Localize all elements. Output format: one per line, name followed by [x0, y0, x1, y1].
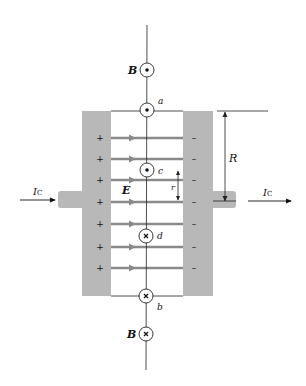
r-arrow-bottom — [176, 196, 180, 201]
point-a-label: a — [158, 96, 163, 106]
field-arrow — [111, 244, 183, 251]
minus-sign: – — [192, 133, 197, 143]
field-arrow — [111, 265, 183, 272]
point-b-label: b — [157, 302, 163, 312]
plus-sign: + — [96, 133, 104, 143]
point-c-out-of-page-icon — [140, 163, 154, 177]
minus-sign: – — [192, 263, 197, 273]
minus-sign: – — [192, 242, 197, 252]
B-top-label: B — [127, 64, 137, 77]
point-b-into-page-icon — [139, 289, 153, 303]
capacitor-diagram: R + + + + + + + – – – – – – – r E — [0, 0, 306, 386]
plus-sign: + — [96, 242, 104, 252]
B-bottom-label: B — [126, 328, 136, 341]
plus-sign: + — [96, 263, 104, 273]
R-label: R — [228, 152, 237, 165]
plus-sign: + — [96, 154, 104, 164]
current-right-label: IC — [262, 187, 272, 198]
r-arrow-top — [176, 171, 180, 176]
right-wire-stub — [211, 191, 236, 208]
E-label: E — [121, 184, 131, 197]
point-a-out-of-page-icon — [140, 103, 154, 117]
right-plate — [183, 111, 213, 296]
field-arrow — [111, 221, 183, 228]
point-d-into-page-icon — [139, 229, 153, 243]
point-c-label: c — [158, 166, 163, 176]
field-arrow — [111, 199, 183, 206]
R-arrow-top — [223, 112, 228, 118]
minus-sign: – — [192, 219, 197, 229]
plus-sign: + — [96, 219, 104, 229]
current-left-label: IC — [32, 186, 42, 197]
plus-sign: + — [96, 175, 104, 185]
plus-sign: + — [96, 197, 104, 207]
B-top-out-of-page-icon — [140, 63, 154, 77]
B-bottom-into-page-icon — [139, 327, 153, 341]
minus-sign: – — [192, 197, 197, 207]
minus-sign: – — [192, 175, 197, 185]
minus-sign: – — [192, 154, 197, 164]
left-wire-stub — [58, 191, 84, 208]
r-label: r — [171, 183, 176, 192]
point-d-label: d — [157, 231, 163, 241]
